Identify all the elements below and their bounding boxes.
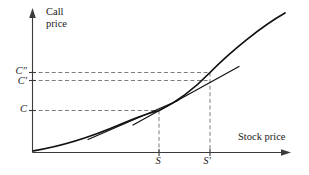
y-axis-title-line2: price <box>46 18 67 29</box>
tangent-line-at-s-prime <box>133 67 239 126</box>
x-tick-label-s: S <box>146 155 170 167</box>
guide-lines-group <box>32 73 210 153</box>
x-tick-label-s-prime: S' <box>195 155 219 167</box>
y-tick-label-c: C <box>2 103 27 115</box>
arrow-up-icon <box>29 8 36 18</box>
tick-marks-group <box>29 73 210 157</box>
arrow-right-icon <box>281 149 291 156</box>
y-axis-title-line1: Call <box>46 6 64 17</box>
y-tick-label-c-prime: C' <box>2 75 27 87</box>
x-axis-title: Stock price <box>238 131 286 143</box>
y-axis-title: Callprice <box>46 6 67 30</box>
call-price-figure: Callprice Stock price C″ C' C S S' <box>0 0 309 175</box>
